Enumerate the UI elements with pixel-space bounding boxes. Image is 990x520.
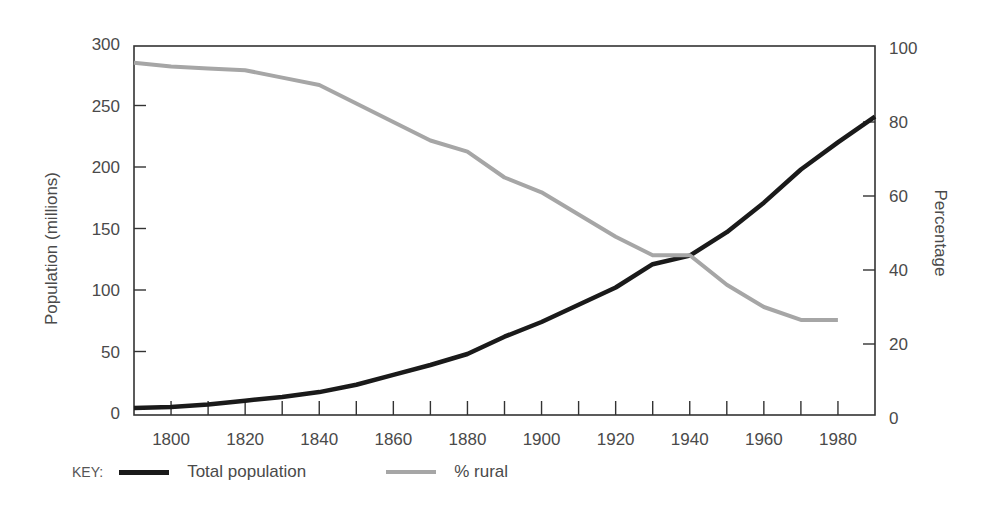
left-axis-title: Population (millions) — [42, 172, 61, 325]
x-axis-tick-label: 1920 — [597, 430, 635, 449]
x-axis-tick-label: 1900 — [523, 430, 561, 449]
right-axis-tick-label: 40 — [889, 261, 908, 280]
legend-item-percent-rural: % rural — [386, 462, 508, 482]
x-axis-tick-label: 1880 — [449, 430, 487, 449]
legend-label-percent-rural: % rural — [454, 462, 508, 482]
x-axis-tick-label: 1940 — [671, 430, 709, 449]
left-axis-tick-label: 100 — [92, 281, 120, 300]
right-axis-tick-label: 100 — [889, 39, 917, 58]
right-axis-title: Percentage — [931, 190, 950, 277]
legend-label-total-population: Total population — [187, 462, 306, 482]
plot-frame — [134, 46, 875, 415]
right-axis-tick-label: 0 — [889, 409, 898, 428]
x-axis-tick-label: 1960 — [745, 430, 783, 449]
left-axis-tick-label: 200 — [92, 158, 120, 177]
legend-swatch-total-population — [119, 470, 169, 475]
series-line-percent-rural — [134, 63, 838, 320]
series-line-total-population — [134, 117, 875, 409]
right-axis-tick-label: 20 — [889, 335, 908, 354]
x-axis-tick-label: 1860 — [374, 430, 412, 449]
left-axis-tick-label: 50 — [101, 343, 120, 362]
chart-canvas: 0501001502002503000204060801001800182018… — [0, 0, 990, 520]
left-axis-tick-label: 300 — [92, 35, 120, 54]
left-axis-tick-label: 150 — [92, 220, 120, 239]
x-axis-tick-label: 1840 — [300, 430, 338, 449]
legend-swatch-percent-rural — [386, 470, 436, 474]
x-axis-tick-label: 1800 — [152, 430, 190, 449]
x-axis-tick-label: 1820 — [226, 430, 264, 449]
left-axis-tick-label: 0 — [111, 404, 120, 423]
right-axis-tick-label: 80 — [889, 113, 908, 132]
legend-item-total-population: Total population — [119, 462, 306, 482]
dual-axis-line-chart: 0501001502002503000204060801001800182018… — [0, 0, 990, 520]
right-axis-tick-label: 60 — [889, 187, 908, 206]
left-axis-tick-label: 250 — [92, 97, 120, 116]
x-axis-tick-label: 1980 — [819, 430, 857, 449]
legend-key-label: KEY: — [72, 464, 103, 480]
chart-legend: KEY: Total population % rural — [72, 457, 508, 487]
